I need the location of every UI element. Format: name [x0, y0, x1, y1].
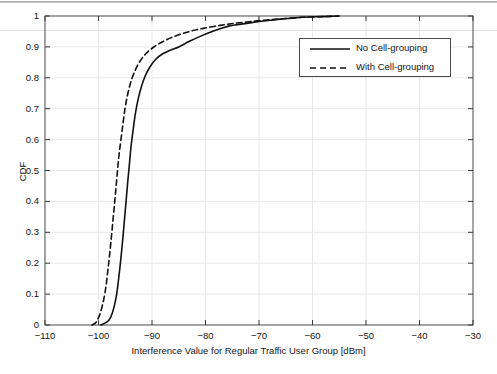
y-tick-label: 0.6: [9, 134, 39, 145]
legend-label: No Cell-grouping: [356, 42, 427, 53]
x-tick-label: −60: [293, 330, 333, 341]
legend-item-no-cell-grouping: No Cell-grouping: [300, 39, 452, 58]
y-tick-label: 0.2: [9, 257, 39, 268]
x-tick-label: −100: [79, 330, 119, 341]
y-tick-label: 0.9: [9, 41, 39, 52]
y-tick-label: 0.5: [9, 165, 39, 176]
x-tick-label: −40: [400, 330, 440, 341]
legend-label: With Cell-grouping: [356, 61, 434, 72]
x-tick-label: −70: [239, 330, 279, 341]
y-tick-label: 1: [9, 10, 39, 21]
y-tick-label: 0.7: [9, 103, 39, 114]
y-tick-label: 0.8: [9, 72, 39, 83]
y-tick-label: 0.4: [9, 195, 39, 206]
x-tick-label: −30: [453, 330, 493, 341]
x-tick-label: −80: [186, 330, 226, 341]
y-tick-label: 0.1: [9, 288, 39, 299]
x-tick-label: −90: [132, 330, 172, 341]
chart-legend: No Cell-grouping With Cell-grouping: [299, 38, 451, 77]
legend-key-solid-icon: [310, 48, 350, 50]
y-tick-label: 0.3: [9, 226, 39, 237]
x-axis-title: Interference Value for Regular Traffic U…: [0, 345, 497, 356]
y-tick-label: 0: [9, 319, 39, 330]
legend-item-with-cell-grouping: With Cell-grouping: [300, 58, 452, 77]
x-tick-label: −110: [25, 330, 65, 341]
x-tick-label: −50: [346, 330, 386, 341]
legend-key-dashed-icon: [310, 67, 350, 69]
